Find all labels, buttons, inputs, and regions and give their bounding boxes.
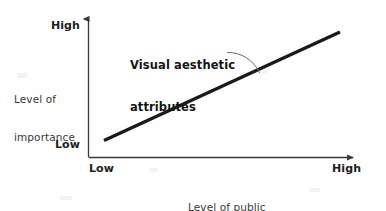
x-axis-title: Level of public openness	[188, 176, 308, 211]
scan-speck	[310, 188, 320, 192]
scan-speck	[18, 73, 27, 78]
scan-speck	[262, 71, 267, 74]
series-annotation-line2: attributes	[130, 100, 260, 114]
scan-speck	[60, 196, 72, 200]
series-annotation-line1: Visual aesthetic	[130, 58, 260, 72]
x-axis-title-line1: Level of public	[188, 201, 308, 211]
y-axis-title: Level of importance	[14, 68, 88, 168]
y-axis-high-label: High	[10, 20, 80, 33]
scan-speck	[150, 168, 158, 172]
x-axis-low-label: Low	[89, 163, 114, 176]
chart-figure: High Low Level of importance Low High Le…	[0, 0, 386, 211]
series-annotation-label: Visual aesthetic attributes	[130, 30, 260, 142]
x-axis-high-label: High	[332, 163, 361, 176]
y-axis-title-line1: Level of	[14, 93, 88, 106]
y-axis-title-line2: importance	[14, 131, 88, 144]
